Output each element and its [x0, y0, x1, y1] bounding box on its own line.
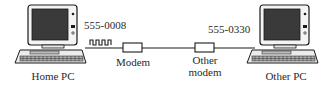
other-pc-label: Other PC	[253, 71, 319, 82]
other-modem-box	[195, 43, 214, 52]
other-modem-label-line2: modem	[180, 67, 230, 78]
square-wave-icon	[90, 40, 111, 45]
home-phone-number: 555-0008	[84, 20, 126, 31]
modem-label: Modem	[108, 57, 158, 68]
other-pc-icon	[247, 5, 318, 63]
home-pc-label: Home PC	[20, 71, 86, 82]
other-phone-number: 555-0330	[208, 24, 250, 35]
other-modem-label-line1: Other	[180, 55, 230, 66]
modem-box	[123, 43, 142, 52]
home-pc-icon	[15, 5, 86, 63]
